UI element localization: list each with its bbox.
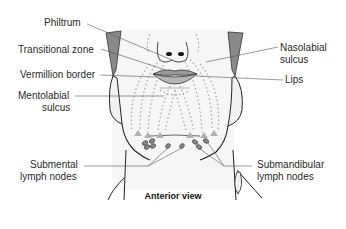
label-lips: Lips xyxy=(285,74,303,85)
label-submental-line1: Submental xyxy=(30,159,78,170)
label-submandibular-line1: Submandibular xyxy=(257,159,324,170)
label-nasolabial-sulcus-line1: Nasolabial xyxy=(280,42,327,53)
right-nostril xyxy=(178,52,184,56)
label-transitional-zone: Transitional zone xyxy=(18,44,94,55)
label-submental-line2: lymph nodes xyxy=(20,171,77,182)
label-nasolabial-sulcus-line2: sulcus xyxy=(280,54,308,65)
label-mentolabial-sulcus-line2: sulcus xyxy=(42,102,70,113)
left-nostril xyxy=(166,52,172,56)
label-philtrum: Philtrum xyxy=(44,17,81,28)
diagram-caption: Anterior view xyxy=(0,191,346,201)
label-vermillion-border: Vermillion border xyxy=(20,69,95,80)
label-submandibular-line2: lymph nodes xyxy=(257,171,314,182)
label-mentolabial-sulcus-line1: Mentolabial xyxy=(18,90,69,101)
anatomy-diagram: Philtrum Transitional zone Vermillion bo… xyxy=(0,0,346,229)
